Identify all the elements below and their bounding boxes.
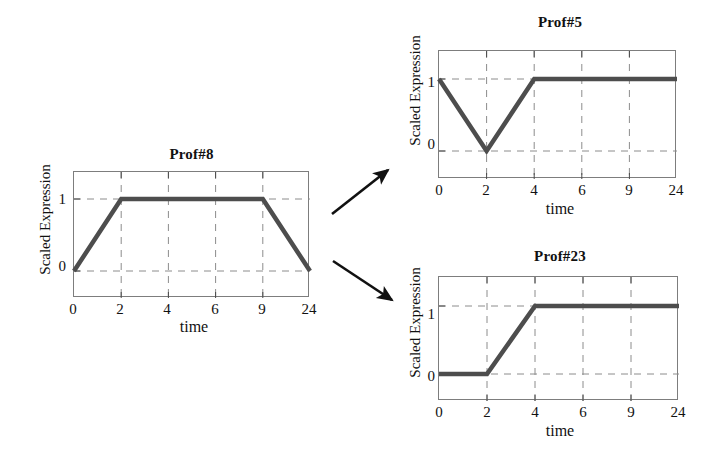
x-tick-label-3-prof23: 6 — [568, 404, 598, 421]
x-axis-label-prof23: time — [500, 422, 620, 440]
panel-title-prof5: Prof#5 — [420, 14, 700, 31]
x-tick-label-4-prof5: 9 — [614, 182, 644, 199]
plot-area-prof5 — [438, 50, 676, 178]
plot-area-prof23 — [438, 276, 678, 400]
horizontal-gridlines-prof5 — [439, 79, 677, 151]
y-tick-label-1-prof8: 1 — [44, 191, 66, 208]
horizontal-gridlines-prof23 — [439, 306, 679, 374]
x-tick-label-0-prof5: 0 — [424, 182, 454, 199]
x-tick-label-2-prof8: 4 — [152, 301, 182, 318]
y-tick-label-0-prof23: 0 — [413, 368, 435, 385]
x-axis-label-prof8: time — [134, 318, 254, 336]
horizontal-gridlines-prof8 — [74, 199, 310, 271]
x-tick-label-1-prof5: 2 — [471, 182, 501, 199]
x-tick-label-5-prof23: 24 — [662, 404, 694, 421]
vertical-gridlines-prof23 — [487, 277, 631, 401]
y-tick-label-1-prof5: 1 — [413, 74, 435, 91]
y-tick-label-0-prof8: 0 — [44, 258, 66, 275]
x-tick-label-0-prof8: 0 — [58, 301, 88, 318]
x-tick-label-5-prof8: 24 — [293, 301, 325, 318]
x-tick-label-2-prof5: 4 — [519, 182, 549, 199]
data-series-prof8 — [74, 199, 310, 271]
x-tick-label-0-prof23: 0 — [424, 404, 454, 421]
x-tick-label-2-prof23: 4 — [520, 404, 550, 421]
y-tick-label-1-prof23: 1 — [413, 306, 435, 323]
x-tick-label-3-prof8: 6 — [200, 301, 230, 318]
plot-svg-prof5 — [439, 51, 677, 179]
plot-svg-prof8 — [74, 172, 310, 298]
x-tick-label-1-prof8: 2 — [105, 301, 135, 318]
x-tick-label-5-prof5: 24 — [660, 182, 692, 199]
x-tick-label-4-prof23: 9 — [616, 404, 646, 421]
panel-prof8: Prof#8 Scaled Expression 1 0 — [24, 146, 324, 336]
data-series-prof5 — [439, 79, 677, 151]
vertical-gridlines-prof8 — [121, 172, 263, 298]
x-tick-label-3-prof5: 6 — [567, 182, 597, 199]
panel-prof5: Prof#5 Scaled Expression 1 0 — [400, 14, 700, 222]
arrow-to-prof23 — [333, 261, 392, 300]
plot-area-prof8 — [73, 171, 309, 297]
arrow-to-prof5 — [332, 170, 388, 214]
panel-prof23: Prof#23 Scaled Expression 1 0 — [400, 248, 700, 456]
panel-title-prof8: Prof#8 — [49, 146, 334, 163]
x-axis-label-prof5: time — [500, 200, 620, 218]
x-tick-label-1-prof23: 2 — [472, 404, 502, 421]
x-tick-label-4-prof8: 9 — [247, 301, 277, 318]
y-tick-label-0-prof5: 0 — [413, 136, 435, 153]
plot-svg-prof23 — [439, 277, 679, 401]
data-series-prof23 — [439, 306, 679, 374]
profile-transition-figure: Prof#8 Scaled Expression 1 0 — [0, 0, 719, 464]
panel-title-prof23: Prof#23 — [420, 248, 700, 265]
